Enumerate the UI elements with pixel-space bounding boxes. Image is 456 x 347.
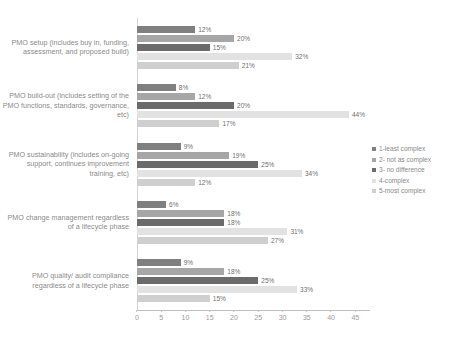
bar-row[interactable]: 25% — [137, 161, 365, 168]
bar-value-label: 6% — [169, 201, 178, 208]
bar[interactable] — [137, 161, 258, 168]
bar-row[interactable]: 18% — [137, 210, 365, 217]
bar[interactable] — [137, 44, 210, 51]
bar-row[interactable]: 8% — [137, 84, 365, 91]
bar-row[interactable]: 19% — [137, 152, 365, 159]
bar-row[interactable]: 9% — [137, 143, 365, 150]
bar[interactable] — [137, 35, 234, 42]
bar-row[interactable]: 18% — [137, 219, 365, 226]
bar-row[interactable]: 27% — [137, 237, 365, 244]
bar[interactable] — [137, 170, 302, 177]
bar-group: 6%18%18%31%27% — [137, 193, 365, 251]
tick-mark — [306, 310, 307, 312]
bar-value-label: 18% — [227, 210, 240, 217]
legend-item[interactable]: 1-least complex — [372, 145, 456, 153]
legend-item[interactable]: 5-most complex — [372, 187, 456, 195]
bar-row[interactable]: 33% — [137, 286, 365, 293]
bar-value-label: 25% — [261, 277, 274, 284]
bar[interactable] — [137, 219, 224, 226]
legend-swatch-icon — [372, 158, 376, 162]
bar-value-label: 12% — [198, 26, 211, 33]
tick-mark — [331, 310, 332, 312]
bar-row[interactable]: 12% — [137, 179, 365, 186]
tick-label: 15 — [206, 314, 214, 321]
bar[interactable] — [137, 26, 195, 33]
legend-item[interactable]: 2- not as complex — [372, 156, 456, 164]
bar[interactable] — [137, 179, 195, 186]
bar[interactable] — [137, 210, 224, 217]
bar[interactable] — [137, 84, 176, 91]
bar[interactable] — [137, 152, 229, 159]
category-label: PMO quality/ audit compliance regardless… — [0, 252, 133, 310]
bar[interactable] — [137, 120, 219, 127]
bar-value-label: 20% — [237, 102, 250, 109]
bar-row[interactable]: 18% — [137, 268, 365, 275]
x-axis-tick: 30 — [279, 310, 287, 321]
tick-mark — [355, 310, 356, 312]
tick-mark — [137, 310, 138, 312]
tick-mark — [209, 310, 210, 312]
bar-row[interactable]: 31% — [137, 228, 365, 235]
bar-row[interactable]: 34% — [137, 170, 365, 177]
bar-value-label: 18% — [227, 268, 240, 275]
bar[interactable] — [137, 53, 292, 60]
bar-row[interactable]: 15% — [137, 295, 365, 302]
bar[interactable] — [137, 259, 181, 266]
bar[interactable] — [137, 102, 234, 109]
bar-value-label: 17% — [222, 120, 235, 127]
bar-value-label: 44% — [352, 111, 365, 118]
tick-mark — [282, 310, 283, 312]
bar-value-label: 15% — [213, 295, 226, 302]
bar[interactable] — [137, 277, 258, 284]
bar-row[interactable]: 20% — [137, 35, 365, 42]
bar-value-label: 18% — [227, 219, 240, 226]
bar-row[interactable]: 12% — [137, 26, 365, 33]
x-axis-tick: 35 — [303, 310, 311, 321]
bar-group: 8%12%20%44%17% — [137, 76, 365, 134]
tick-label: 5 — [159, 314, 163, 321]
bar-row[interactable]: 15% — [137, 44, 365, 51]
bar[interactable] — [137, 143, 181, 150]
legend-swatch-icon — [372, 168, 376, 172]
legend-label: 1-least complex — [379, 145, 425, 153]
bar-row[interactable]: 17% — [137, 120, 365, 127]
bar[interactable] — [137, 237, 268, 244]
bar-row[interactable]: 44% — [137, 111, 365, 118]
bar-value-label: 32% — [295, 53, 308, 60]
legend-item[interactable]: 3- no difference — [372, 166, 456, 174]
bar-value-label: 15% — [213, 44, 226, 51]
bar-groups: 12%20%15%32%21%8%12%20%44%17%9%19%25%34%… — [137, 18, 365, 310]
bar[interactable] — [137, 62, 239, 69]
bar-value-label: 31% — [290, 228, 303, 235]
bar-row[interactable]: 25% — [137, 277, 365, 284]
bar-row[interactable]: 21% — [137, 62, 365, 69]
category-label: PMO setup (includes buy in, funding, ass… — [0, 18, 133, 76]
category-label: PMO build-out (includes setting of the P… — [0, 76, 133, 134]
category-label: PMO sustainability (includes on-going su… — [0, 135, 133, 193]
bar-row[interactable]: 20% — [137, 102, 365, 109]
bar-value-label: 33% — [300, 286, 313, 293]
bar-value-label: 9% — [184, 259, 193, 266]
bar[interactable] — [137, 93, 195, 100]
bar-row[interactable]: 6% — [137, 201, 365, 208]
category-label: PMO change management regardless of a li… — [0, 193, 133, 251]
legend-label: 2- not as complex — [379, 156, 431, 164]
legend-item[interactable]: 4-complex — [372, 177, 456, 185]
bar-row[interactable]: 12% — [137, 93, 365, 100]
bar[interactable] — [137, 228, 287, 235]
bar[interactable] — [137, 111, 349, 118]
x-axis-tick: 20 — [230, 310, 238, 321]
bar[interactable] — [137, 201, 166, 208]
legend-label: 5-most complex — [379, 187, 426, 195]
x-axis-tick: 0 — [135, 310, 139, 321]
bar-value-label: 8% — [179, 84, 188, 91]
x-axis-tick: 15 — [206, 310, 214, 321]
bar-row[interactable]: 9% — [137, 259, 365, 266]
bar[interactable] — [137, 295, 210, 302]
bar[interactable] — [137, 286, 297, 293]
bar-value-label: 9% — [184, 143, 193, 150]
bar-value-label: 20% — [237, 35, 250, 42]
tick-mark — [161, 310, 162, 312]
bar-row[interactable]: 32% — [137, 53, 365, 60]
bar[interactable] — [137, 268, 224, 275]
